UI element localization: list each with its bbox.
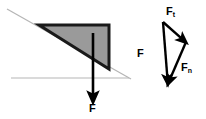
normal-force-label-base: F <box>181 61 188 73</box>
weight-force-label: F <box>89 103 96 114</box>
tangential-force-label-base: F <box>166 5 173 17</box>
wedge-block <box>39 25 109 69</box>
diagram-canvas <box>0 0 206 119</box>
resultant-force-arrow <box>163 22 168 81</box>
tangential-force-label: Ft <box>166 6 175 17</box>
normal-force-label: Fn <box>181 62 192 73</box>
tangential-force-arrow <box>163 22 184 40</box>
tangential-force-label-subscript: t <box>173 11 175 18</box>
normal-force-label-subscript: n <box>188 67 192 74</box>
physics-diagram-figure: F F Ft Fn <box>0 0 206 119</box>
resultant-force-label: F <box>137 48 144 59</box>
